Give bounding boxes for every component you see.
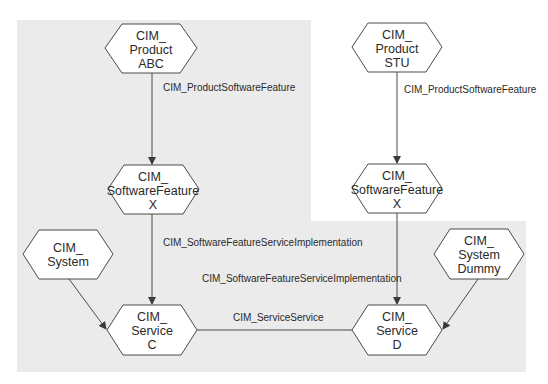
node-product-abc[interactable]: CIM_ Product ABC [105, 24, 197, 73]
node-softwarefeature-x-right[interactable]: CIM_ SoftwareFeature X [351, 164, 443, 213]
node-label-line: Service [376, 324, 418, 338]
node-label-line: CIM_ [382, 28, 413, 42]
node-label-line: SoftwareFeature [107, 184, 199, 198]
node-label-line: Service [131, 324, 173, 338]
edge-label-feature-service-impl-left: CIM_SoftwareFeatureServiceImplementation [163, 237, 363, 248]
edge-label-product-software-feature-right: CIM_ProductSoftwareFeature [404, 84, 537, 95]
node-label-line: ABC [138, 57, 164, 71]
node-label-line: Dummy [457, 262, 501, 276]
node-label-line: Product [375, 42, 419, 56]
edge-label-feature-service-impl-right: CIM_SoftwareFeatureServiceImplementation [202, 273, 402, 284]
node-label-line: CIM_ [136, 29, 167, 43]
node-label-line: CIM_ [382, 310, 413, 324]
edge-label-product-software-feature-left: CIM_ProductSoftwareFeature [163, 82, 296, 93]
node-service-d[interactable]: CIM_ Service D [352, 305, 442, 355]
node-label-line: STU [385, 56, 410, 70]
node-label-line: SoftwareFeature [351, 183, 443, 197]
node-label-line: System [47, 255, 89, 269]
node-label-line: CIM_ [137, 310, 168, 324]
node-label-line: Product [129, 43, 173, 57]
node-system[interactable]: CIM_ System [23, 230, 113, 279]
node-label-line: CIM_ [138, 170, 169, 184]
node-label-line: CIM_ [464, 234, 495, 248]
node-service-c[interactable]: CIM_ Service C [107, 305, 197, 355]
node-label-line: CIM_ [53, 241, 84, 255]
node-system-dummy[interactable]: CIM_ System Dummy [434, 229, 524, 279]
node-product-stu[interactable]: CIM_ Product STU [352, 23, 442, 72]
cim-diagram: CIM_ProductSoftwareFeature CIM_ProductSo… [0, 0, 548, 384]
node-label-line: C [147, 338, 156, 352]
node-label-line: D [392, 338, 401, 352]
node-label-line: CIM_ [382, 169, 413, 183]
node-label-line: X [393, 197, 402, 211]
node-softwarefeature-x-left[interactable]: CIM_ SoftwareFeature X [107, 165, 199, 214]
node-label-line: System [458, 248, 500, 262]
node-label-line: X [149, 198, 158, 212]
edge-label-service-service: CIM_ServiceService [233, 312, 324, 323]
